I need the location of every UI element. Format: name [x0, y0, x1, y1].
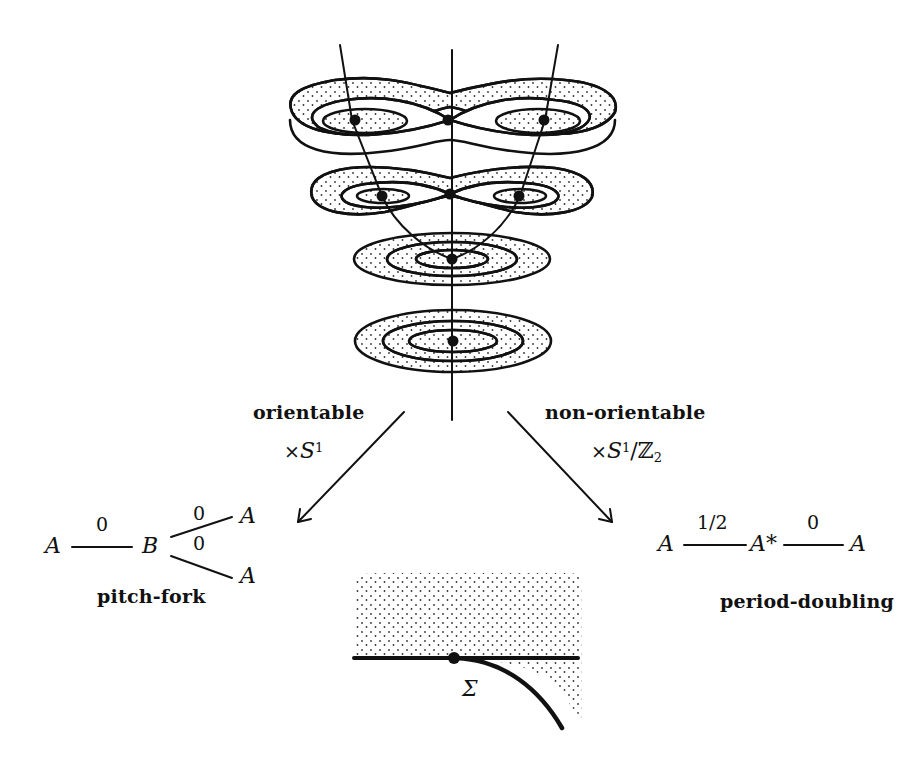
sigma-label: Σ [462, 676, 478, 701]
node-a-first: A [658, 531, 674, 556]
node-b: B [142, 533, 158, 558]
edge-label-b-lower: 0 [193, 532, 205, 554]
edge-label-b-upper: 0 [193, 502, 205, 524]
node-a-upper: A [240, 503, 256, 528]
edge-label-half: 1/2 [697, 511, 728, 533]
non-orientable-operation: ×S1/ℤ2 [591, 438, 662, 465]
edge-label-zero: 0 [807, 511, 819, 533]
bifurcation-diagram [0, 0, 908, 777]
node-a-left: A [45, 533, 61, 558]
non-orientable-label: non-orientable [545, 401, 705, 423]
pitch-fork-label: pitch-fork [97, 585, 206, 607]
period-doubling-label: period-doubling [720, 590, 894, 612]
node-a-star: A* [750, 531, 777, 556]
arrow-left [298, 412, 404, 522]
orientable-label: orientable [253, 401, 364, 423]
node-a-last: A [850, 531, 866, 556]
sigma-inset [352, 573, 582, 728]
arrow-right [508, 412, 612, 522]
orientable-operation: ×S1 [284, 438, 323, 463]
edge-label-ab: 0 [96, 513, 108, 535]
node-a-lower: A [240, 563, 256, 588]
